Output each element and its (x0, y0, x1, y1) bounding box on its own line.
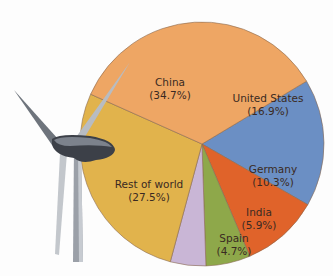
slice-label: Germany(10.3%) (249, 163, 297, 189)
slice-percent: (5.9%) (242, 219, 277, 232)
slice-name: Spain (217, 232, 252, 245)
slice-label: Rest of world(27.5%) (115, 178, 184, 204)
slice-name: China (149, 76, 191, 89)
slice-name: Rest of world (115, 178, 184, 191)
slice-label: China(34.7%) (149, 76, 191, 102)
slice-percent: (34.7%) (149, 89, 191, 102)
wind-turbine-icon (0, 0, 333, 276)
slice-label: Spain(4.7%) (217, 232, 252, 258)
slice-name: Germany (249, 163, 297, 176)
slice-label: India(5.9%) (242, 206, 277, 232)
pie-chart: United States(16.9%)Germany(10.3%)India(… (0, 0, 333, 276)
slice-label: United States(16.9%) (232, 92, 303, 118)
slice-percent: (16.9%) (232, 105, 303, 118)
slice-percent: (10.3%) (249, 176, 297, 189)
slice-name: United States (232, 92, 303, 105)
slice-percent: (4.7%) (217, 245, 252, 258)
slice-percent: (27.5%) (115, 191, 184, 204)
slice-name: India (242, 206, 277, 219)
